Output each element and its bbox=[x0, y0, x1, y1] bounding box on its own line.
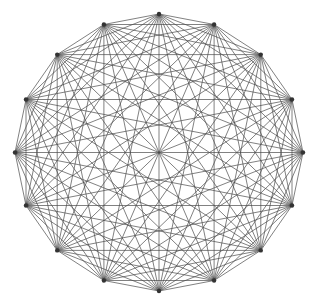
graph-vertex bbox=[290, 97, 294, 101]
graph-vertex bbox=[290, 203, 294, 207]
graph-vertex bbox=[13, 150, 17, 154]
graph-vertex bbox=[212, 22, 216, 26]
graph-vertex bbox=[55, 248, 59, 252]
graph-vertex bbox=[102, 278, 106, 282]
graph-vertex bbox=[301, 150, 305, 154]
graph-vertex bbox=[157, 289, 161, 293]
graph-vertex bbox=[259, 52, 263, 56]
graph-vertex bbox=[259, 248, 263, 252]
complete-graph-canvas bbox=[0, 0, 323, 304]
graph-vertex bbox=[102, 22, 106, 26]
figure-root bbox=[0, 0, 323, 304]
graph-vertex bbox=[212, 278, 216, 282]
graph-vertex bbox=[157, 12, 161, 16]
graph-vertex bbox=[24, 97, 28, 101]
graph-vertex bbox=[55, 52, 59, 56]
graph-vertex bbox=[24, 203, 28, 207]
